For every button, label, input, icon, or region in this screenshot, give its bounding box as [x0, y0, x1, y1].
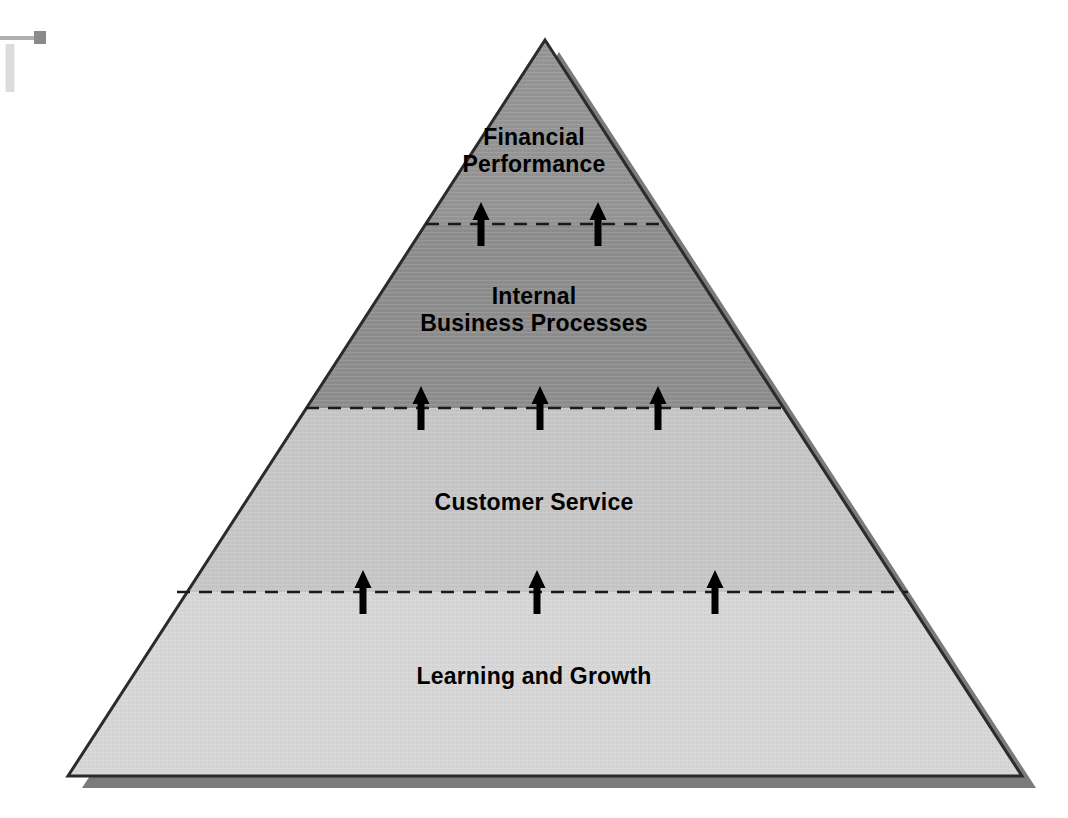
pyramid-graphic [0, 0, 1068, 818]
pyramid-diagram-canvas: Financial Performance Internal Business … [0, 0, 1068, 818]
scan-edge-mark [0, 0, 120, 110]
scan-mark-handle [34, 31, 46, 44]
